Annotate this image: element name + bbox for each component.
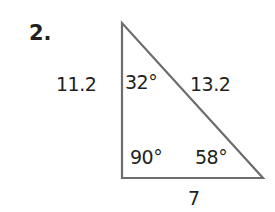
side-bottom-label: 7 [188, 189, 200, 208]
side-left-label: 11.2 [56, 75, 96, 94]
right-triangle [0, 0, 275, 212]
angle-bottom-left-label: 90° [130, 148, 162, 167]
angle-top-label: 32° [125, 73, 157, 92]
angle-bottom-right-label: 58° [195, 148, 227, 167]
side-hypotenuse-label: 13.2 [190, 75, 230, 94]
